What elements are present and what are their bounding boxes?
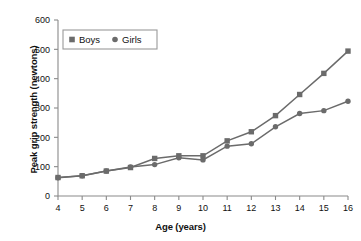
x-axis-tick-label: 14	[295, 203, 305, 213]
data-point-boys	[297, 92, 302, 97]
data-point-girls	[79, 173, 84, 178]
data-point-boys	[321, 71, 326, 76]
x-axis-tick-label: 13	[270, 203, 280, 213]
data-point-girls	[200, 157, 205, 162]
data-point-girls	[249, 141, 254, 146]
grip-strength-line-chart: 010020030040050060045678910111213141516B…	[0, 0, 361, 241]
x-axis-tick-label: 6	[104, 203, 109, 213]
data-point-girls	[104, 168, 109, 173]
y-axis-title: Peak grip strength (newtons)	[28, 15, 39, 205]
x-axis-tick-label: 9	[176, 203, 181, 213]
x-axis-tick-label: 4	[55, 203, 60, 213]
x-axis-tick-label: 12	[246, 203, 256, 213]
legend-label-girls: Girls	[122, 34, 142, 45]
data-point-girls	[152, 162, 157, 167]
x-axis-tick-label: 5	[80, 203, 85, 213]
data-point-boys	[249, 129, 254, 134]
data-point-girls	[176, 155, 181, 160]
x-axis-tick-label: 15	[319, 203, 329, 213]
data-point-girls	[224, 143, 229, 148]
legend-label-boys: Boys	[79, 34, 100, 45]
x-axis-title: Age (years)	[0, 221, 361, 232]
data-point-girls	[321, 108, 326, 113]
series-line-girls	[58, 101, 348, 178]
data-point-girls	[128, 164, 133, 169]
legend-marker-boys-icon	[69, 37, 75, 43]
data-point-girls	[273, 124, 278, 129]
x-axis-tick-label: 16	[343, 203, 353, 213]
data-point-boys	[152, 156, 157, 161]
data-point-girls	[297, 111, 302, 116]
legend-marker-girls-icon	[112, 37, 118, 43]
y-axis-tick-label: 0	[45, 191, 50, 201]
data-point-girls	[345, 99, 350, 104]
x-axis-tick-label: 11	[222, 203, 231, 213]
data-point-girls	[55, 175, 60, 180]
data-point-boys	[273, 113, 278, 118]
x-axis-tick-label: 8	[152, 203, 157, 213]
x-axis-tick-label: 7	[128, 203, 133, 213]
data-point-boys	[224, 138, 229, 143]
x-axis-tick-label: 10	[198, 203, 208, 213]
legend-box	[63, 30, 157, 49]
data-point-boys	[345, 48, 350, 53]
chart-plot-area: 010020030040050060045678910111213141516B…	[0, 0, 361, 241]
